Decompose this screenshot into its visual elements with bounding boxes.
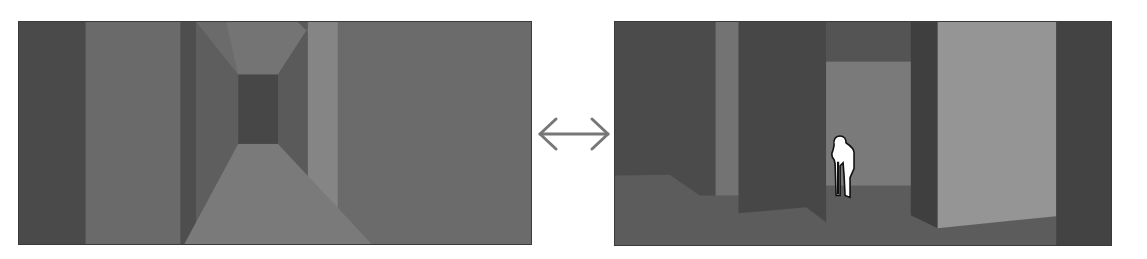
dark-pillar (911, 22, 938, 228)
corridor-render (19, 22, 531, 244)
left-pillar (180, 22, 196, 244)
left-wall (86, 22, 181, 244)
corridor-end-wall (238, 75, 278, 144)
far-left-strip (19, 22, 86, 244)
right-wall (1056, 22, 1111, 245)
mid-wall (739, 22, 827, 222)
big-pillar (938, 22, 1057, 228)
room-render (615, 22, 1111, 245)
right-overview-view (614, 21, 1112, 246)
ceiling-back (826, 22, 912, 62)
double-arrow-icon (536, 115, 612, 153)
left-corridor-view (18, 21, 532, 245)
left-wall (615, 22, 717, 195)
light-pillar (716, 22, 740, 195)
